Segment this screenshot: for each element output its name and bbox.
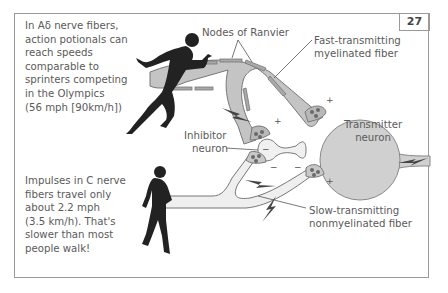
plus-sign-inhibitor: +	[274, 116, 282, 126]
minus-sign-inhibitor: −	[262, 144, 270, 154]
plus-sign-slow: +	[326, 176, 334, 186]
plus-sign-fast: +	[326, 95, 334, 105]
inhibitor-neuron-label: Inhibitor neuron	[184, 129, 228, 155]
nodes-of-ranvier-label: Nodes of Ranvier	[202, 26, 289, 39]
nonmyelinated-fiber	[156, 154, 314, 208]
fast-fiber-label: Fast-transmitting myelinated fiber	[314, 34, 401, 60]
minus-sign-right: −	[294, 162, 302, 172]
fast-fiber-pointer-line	[274, 40, 312, 78]
slow-fiber-label: Slow-transmitting nonmyelinated fiber	[309, 204, 412, 230]
fast-fiber-note: In Aδ nerve fibers, action potionals can…	[25, 19, 128, 114]
walker-silhouette	[142, 166, 172, 254]
runner-silhouette	[126, 33, 212, 134]
minus-sign-slow: −	[270, 162, 278, 172]
transmitter-neuron-label: Transmitter neuron	[344, 118, 402, 144]
slow-fiber-note: Impulses in C nerve fibers travel only a…	[25, 174, 126, 256]
slow-lightning-icon-1	[245, 180, 276, 188]
inhibitor-pointer-line	[226, 148, 258, 150]
